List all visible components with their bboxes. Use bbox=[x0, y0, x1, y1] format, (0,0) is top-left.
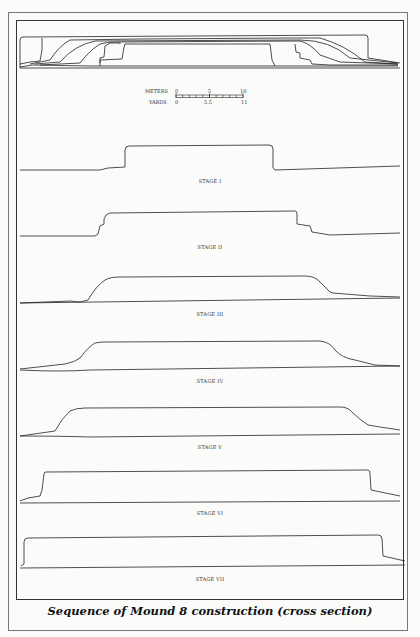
stage-4-label: STAGE IV bbox=[0, 378, 420, 384]
yards-tick-0: 0 bbox=[175, 99, 178, 105]
meters-tick-10: 10 bbox=[240, 88, 246, 94]
stage-6-label: STAGE VI bbox=[0, 510, 420, 516]
stage-5-profile bbox=[20, 407, 400, 437]
meters-tick-0: 0 bbox=[175, 88, 178, 94]
stage-2-label: STAGE II bbox=[0, 244, 420, 250]
stage-7-label: STAGE VII bbox=[0, 576, 420, 582]
meters-label: METERS bbox=[145, 88, 168, 94]
stage-5-label: STAGE V bbox=[0, 444, 420, 450]
yards-tick-11: 11 bbox=[241, 99, 247, 105]
stage-3-label: STAGE III bbox=[0, 311, 420, 317]
stage-2-profile bbox=[20, 211, 400, 236]
yards-tick-5-5: 5.5 bbox=[204, 99, 212, 105]
stage-6-profile bbox=[20, 470, 400, 503]
stage-4-profile bbox=[20, 341, 400, 371]
meters-tick-5: 5 bbox=[208, 88, 211, 94]
cross-section-drawing bbox=[0, 0, 420, 637]
stage-1-label: STAGE I bbox=[0, 178, 420, 184]
composite-profile bbox=[20, 35, 400, 68]
yards-label: YARDS bbox=[149, 99, 167, 105]
figure-caption: Sequence of Mound 8 construction (cross … bbox=[0, 604, 420, 618]
stage-3-profile bbox=[20, 276, 400, 303]
stage-7-profile bbox=[20, 535, 405, 568]
stage-1-profile bbox=[20, 145, 400, 170]
